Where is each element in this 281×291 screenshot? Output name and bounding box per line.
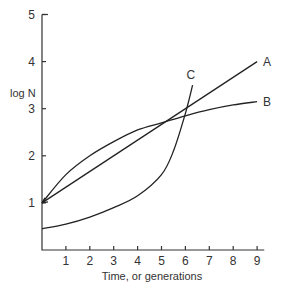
y-tick-label: 2 [28,149,35,163]
x-axis-label: Time, or generations [102,270,203,282]
y-axis-label: log N [10,87,36,99]
curve-a [42,62,257,203]
y-tick-label: 1 [28,196,35,210]
x-tick-label: 5 [158,254,165,268]
x-tick-label: 7 [206,254,213,268]
y-tick-label: 5 [28,8,35,22]
chart: 12345123456789 log NTime, or generations… [0,0,281,291]
x-tick-label: 1 [63,254,70,268]
curve-b [42,102,257,203]
curves [42,62,257,229]
x-tick-label: 8 [230,254,237,268]
x-tick-label: 6 [182,254,189,268]
x-tick-label: 3 [110,254,117,268]
axes: 12345123456789 [28,8,264,269]
axis-lines [42,15,264,251]
labels: log NTime, or generationsABC [10,55,271,282]
curve-label-a: A [263,55,271,69]
x-tick-label: 2 [86,254,93,268]
x-tick-label: 9 [254,254,261,268]
x-tick-label: 4 [134,254,141,268]
curve-c [42,85,193,229]
curve-label-b: B [263,95,271,109]
y-tick-label: 4 [28,55,35,69]
y-tick-label: 3 [28,102,35,116]
curve-label-c: C [187,68,196,82]
